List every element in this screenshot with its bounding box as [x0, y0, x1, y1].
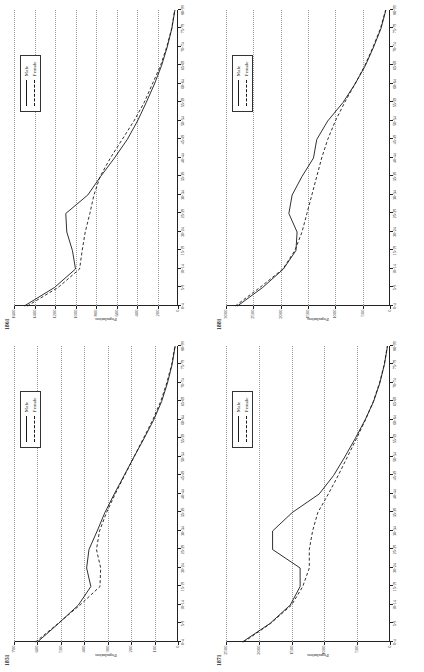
legend-label-male: Male [24, 66, 29, 76]
y-tick-label: 1400 [32, 310, 37, 319]
chart-title: 1851 [4, 654, 10, 666]
legend-swatch-female [246, 416, 247, 442]
y-tick-label: 300 [105, 646, 110, 653]
y-tick-label: 2500 [251, 310, 256, 319]
x-tick-label: 80-99 [393, 5, 397, 15]
x-tick-label: 10-14 [393, 600, 397, 610]
y-tick-label: 400 [82, 646, 87, 653]
plot-area: 01002003004005006007000-45-910-1415-1920… [14, 346, 178, 642]
y-tick-label: 0 [388, 310, 393, 312]
x-tick-label: 80-99 [181, 5, 185, 15]
x-tick-label: 30-34 [181, 526, 185, 536]
x-tick-label: 40-44 [181, 153, 185, 163]
legend-item-female[interactable]: Female [244, 397, 249, 442]
chart-legend: MaleFemale [20, 55, 41, 112]
legend-label-male: Male [236, 402, 241, 412]
y-tick-label: 500 [360, 310, 365, 317]
chart-panel-1881: 1881Population0500100015002000250030000-… [212, 0, 424, 336]
plot-area: 0500100015002000250030000-45-910-1415-19… [226, 10, 390, 306]
legend-item-female[interactable]: Female [244, 61, 249, 106]
x-tick-label: 80-99 [393, 341, 397, 351]
x-tick-label: 65-69 [393, 61, 397, 71]
legend-swatch-female [34, 80, 35, 106]
series-layer [226, 346, 390, 642]
x-tick-label: 70-74 [181, 378, 185, 388]
x-tick-label: 45-49 [393, 135, 397, 145]
x-tick-label: 5-9 [393, 621, 397, 626]
chart-panel-1861: 1861Population02004006008001000120014001… [0, 0, 212, 336]
x-tick-label: 5-9 [181, 285, 185, 290]
chart-legend: MaleFemale [20, 391, 41, 448]
y-tick-label: 1000 [73, 310, 78, 319]
y-tick-label: 1600 [12, 310, 17, 319]
x-tick-label: 65-69 [181, 397, 185, 407]
series-layer [14, 346, 178, 642]
legend-item-male[interactable]: Male [24, 397, 29, 442]
y-axis-title: Population [95, 653, 117, 658]
legend-item-female[interactable]: Female [32, 397, 37, 442]
x-tick-label: 5-9 [181, 621, 185, 626]
x-tick-label: 55-59 [181, 434, 185, 444]
y-tick-label: 1500 [289, 646, 294, 655]
series-line-female [244, 346, 388, 642]
y-axis-title: Population [307, 317, 329, 322]
x-tick-label: 40-44 [393, 153, 397, 163]
x-tick-label: 70-74 [393, 378, 397, 388]
x-tick-label: 70-74 [393, 42, 397, 52]
x-tick-label: 10-14 [393, 264, 397, 274]
y-tick-label: 600 [35, 646, 40, 653]
series-line-male [242, 346, 387, 642]
x-tick-label: 50-54 [393, 452, 397, 462]
x-tick-label: 25-29 [181, 545, 185, 555]
x-tick-label: 55-59 [393, 434, 397, 444]
legend-label-female: Female [244, 61, 249, 76]
x-tick-label: 50-54 [181, 116, 185, 126]
x-tick-label: 60-64 [181, 79, 185, 89]
chart-panel-1871: 1871Population050010001500200025000-45-9… [212, 336, 424, 672]
series-line-male [237, 10, 385, 306]
legend-label-female: Female [32, 61, 37, 76]
y-tick-label: 0 [176, 646, 181, 648]
legend-item-male[interactable]: Male [236, 397, 241, 442]
legend-swatch-female [246, 80, 247, 106]
legend-item-male[interactable]: Male [236, 61, 241, 106]
chart-title: 1881 [216, 318, 222, 330]
x-tick-label: 70-74 [181, 42, 185, 52]
y-tick-label: 700 [12, 646, 17, 653]
x-tick-label: 25-29 [181, 209, 185, 219]
x-tick-label: 80-99 [181, 341, 185, 351]
x-tick-label: 75-79 [393, 360, 397, 370]
y-axis-title: Population [95, 317, 117, 322]
chart-canvas: 1871Population050010001500200025000-45-9… [212, 336, 424, 672]
chart-legend: MaleFemale [232, 55, 253, 112]
chart-legend: MaleFemale [232, 391, 253, 448]
figure-page: 1861Population02004006008001000120014001… [0, 0, 424, 672]
y-tick-label: 0 [388, 646, 393, 648]
x-tick-label: 45-49 [181, 471, 185, 481]
legend-item-female[interactable]: Female [32, 61, 37, 106]
x-tick-label: 10-14 [181, 264, 185, 274]
x-tick-label: 30-34 [393, 190, 397, 200]
chart-title: 1871 [216, 654, 222, 666]
x-tick-label: 60-64 [181, 415, 185, 425]
x-tick-label: 45-49 [393, 471, 397, 481]
y-tick-label: 2500 [224, 646, 229, 655]
x-tick-label: 5-9 [393, 285, 397, 290]
legend-item-male[interactable]: Male [24, 61, 29, 106]
x-tick-label: 0-4 [181, 303, 185, 308]
y-tick-label: 0 [176, 310, 181, 312]
x-tick-label: 75-79 [181, 24, 185, 34]
x-tick-label: 35-39 [393, 508, 397, 518]
x-tick-label: 60-64 [393, 415, 397, 425]
chart-title: 1861 [4, 318, 10, 330]
x-tick-label: 15-19 [393, 246, 397, 256]
x-tick-label: 20-24 [181, 227, 185, 237]
legend-swatch-female [34, 416, 35, 442]
series-line-female [27, 10, 174, 306]
y-tick-label: 3000 [224, 310, 229, 319]
x-tick-label: 35-39 [393, 172, 397, 182]
chart-canvas: 1861Population02004006008001000120014001… [0, 0, 212, 336]
x-tick-label: 55-59 [393, 98, 397, 108]
y-tick-label: 500 [355, 646, 360, 653]
x-tick-label: 20-24 [393, 563, 397, 573]
